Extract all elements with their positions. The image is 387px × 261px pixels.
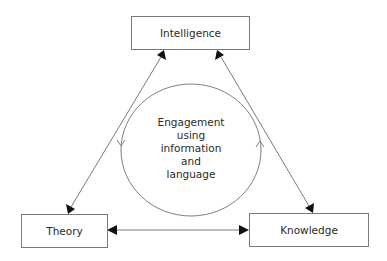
arrowhead-icon bbox=[157, 50, 166, 60]
center-line: and bbox=[141, 155, 241, 168]
cycle-chevron-up-icon bbox=[256, 141, 264, 147]
center-line: information bbox=[141, 142, 241, 155]
center-line: Engagement bbox=[141, 116, 241, 129]
node-label: Knowledge bbox=[280, 224, 338, 236]
node-theory: Theory bbox=[21, 214, 108, 248]
arrowhead-icon bbox=[66, 204, 75, 214]
node-label: Intelligence bbox=[160, 27, 221, 39]
arrowhead-icon bbox=[107, 225, 117, 235]
node-intelligence: Intelligence bbox=[131, 16, 250, 50]
node-knowledge: Knowledge bbox=[249, 213, 369, 247]
center-line: language bbox=[141, 168, 241, 181]
arrowhead-icon bbox=[239, 225, 249, 235]
arrowhead-icon bbox=[305, 203, 314, 213]
arrowhead-icon bbox=[215, 50, 224, 60]
node-label: Theory bbox=[46, 225, 82, 237]
engagement-label: Engagement using information and languag… bbox=[141, 116, 241, 181]
center-line: using bbox=[141, 129, 241, 142]
